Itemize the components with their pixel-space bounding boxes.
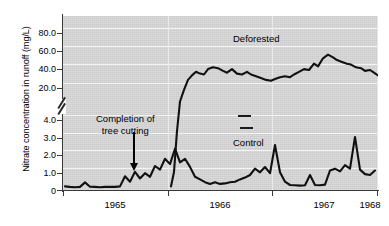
y-tick-label-20: 20.0 bbox=[38, 83, 56, 93]
y-tick-60 bbox=[57, 51, 63, 52]
control-series-label: Control bbox=[233, 137, 264, 149]
y-tick-80 bbox=[57, 33, 63, 34]
y-tick-label-60: 60.0 bbox=[38, 46, 56, 56]
x-axis-line bbox=[62, 190, 379, 191]
completion-arrow-icon bbox=[129, 132, 138, 172]
y-tick-40 bbox=[57, 69, 63, 70]
y-tick-label-1: 1.0 bbox=[43, 168, 56, 178]
control-line bbox=[65, 137, 375, 187]
y-tick-label-3: 3.0 bbox=[43, 133, 56, 143]
y-tick-label-2: 2.0 bbox=[43, 150, 56, 160]
x-tick-1965-start bbox=[63, 190, 64, 196]
y-axis-title: Nitrate concentration in runoff (mg/L) bbox=[21, 0, 31, 199]
y-tick-label-80: 80.0 bbox=[38, 28, 56, 38]
curve-axis-break bbox=[238, 114, 258, 134]
y-tick-20 bbox=[57, 88, 63, 89]
y-tick-3 bbox=[57, 138, 63, 139]
series-paths bbox=[63, 16, 378, 190]
x-tick-1968-start bbox=[377, 190, 378, 196]
y-tick-label-0: 0 bbox=[51, 186, 56, 196]
plot-area bbox=[63, 16, 378, 190]
completion-annotation: Completion of tree cutting bbox=[96, 113, 155, 136]
x-tick-1966-start bbox=[168, 190, 169, 196]
y-tick-label-40: 40.0 bbox=[38, 64, 56, 74]
deforested-series-label: Deforested bbox=[233, 33, 279, 45]
x-tick-label-1965: 1965 bbox=[85, 199, 145, 210]
y-tick-2 bbox=[57, 155, 63, 156]
x-tick-1967-start bbox=[272, 190, 273, 196]
y-tick-1 bbox=[57, 173, 63, 174]
y-tick-4 bbox=[57, 120, 63, 121]
completion-line-1: Completion of bbox=[96, 113, 155, 124]
x-tick-label-1966: 1966 bbox=[190, 199, 250, 210]
y-tick-label-4: 4.0 bbox=[43, 115, 56, 125]
x-tick-label-1968: 1968 bbox=[340, 199, 389, 210]
chart-figure: Nitrate concentration in runoff (mg/L) bbox=[0, 0, 389, 226]
completion-line-2: tree cutting bbox=[102, 125, 149, 136]
